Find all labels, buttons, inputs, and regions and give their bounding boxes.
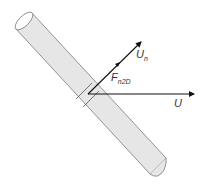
u-label: U <box>174 97 182 109</box>
un-arrow <box>88 42 141 94</box>
force-label: Fn2D <box>111 71 131 85</box>
un-vector <box>88 42 141 94</box>
diagram-canvas: Un Fn2D U <box>0 0 207 184</box>
un-label: Un <box>136 48 148 62</box>
